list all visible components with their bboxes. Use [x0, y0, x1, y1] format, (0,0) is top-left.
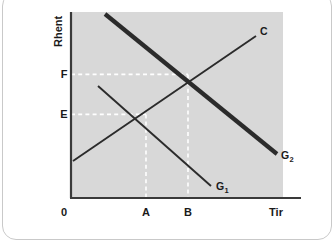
x-tick-label-a: A — [142, 206, 150, 218]
y-tick-label-e: E — [60, 108, 67, 120]
origin-label: 0 — [61, 206, 67, 218]
x-tick-label-b: B — [184, 206, 192, 218]
curve-label-g2: G — [281, 149, 289, 161]
curve-label-g1: G — [216, 180, 224, 192]
curve-label-g1-subscript: 1 — [225, 186, 229, 195]
x-axis-title: Tir — [269, 206, 284, 218]
y-axis-title: Rhent — [52, 16, 64, 48]
curve-label-c: C — [260, 25, 268, 37]
y-tick-label-f: F — [61, 68, 68, 80]
curve-label-g2-subscript: 2 — [290, 155, 294, 164]
